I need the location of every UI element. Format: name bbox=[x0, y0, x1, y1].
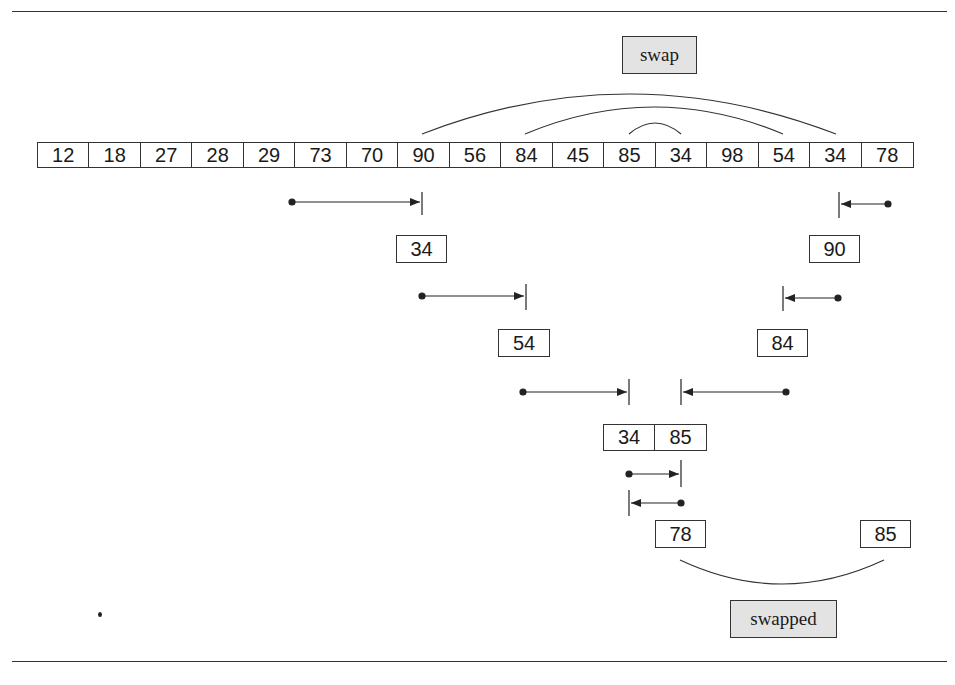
array-cell: 70 bbox=[347, 143, 398, 167]
array-cell: 18 bbox=[89, 143, 140, 167]
array-cell: 29 bbox=[244, 143, 295, 167]
swapped-label: swapped bbox=[730, 600, 837, 638]
array-cell: 45 bbox=[553, 143, 604, 167]
array-cell: 73 bbox=[295, 143, 346, 167]
array-cell: 27 bbox=[141, 143, 192, 167]
stray-dot-mark bbox=[98, 612, 102, 617]
array-cell: 84 bbox=[501, 143, 552, 167]
array-cell: 12 bbox=[38, 143, 89, 167]
array-cell: 56 bbox=[450, 143, 501, 167]
array-cell: 85 bbox=[604, 143, 655, 167]
swapped-arc bbox=[680, 560, 884, 584]
array-row: 12 18 27 28 29 73 70 90 56 84 45 85 34 9… bbox=[37, 142, 914, 168]
array-cell: 28 bbox=[192, 143, 243, 167]
step2-right-value: 84 bbox=[757, 329, 808, 357]
swap-arc-inner bbox=[629, 123, 681, 134]
final-right-value: 85 bbox=[860, 520, 911, 548]
step1-left-value: 34 bbox=[396, 235, 447, 263]
array-cell: 34 bbox=[810, 143, 861, 167]
diagram-lines bbox=[0, 0, 955, 685]
swap-arc-outer bbox=[422, 94, 836, 134]
array-cell: 34 bbox=[656, 143, 707, 167]
bottom-rule bbox=[12, 661, 947, 662]
swap-arc-middle bbox=[525, 107, 783, 134]
step1-right-value: 90 bbox=[809, 235, 860, 263]
final-left-value: 78 bbox=[655, 520, 706, 548]
array-cell: 78 bbox=[862, 143, 913, 167]
array-cell: 54 bbox=[759, 143, 810, 167]
step3-pair: 34 85 bbox=[603, 424, 707, 451]
pair-left-value: 34 bbox=[604, 425, 655, 450]
pair-right-value: 85 bbox=[655, 425, 706, 450]
step2-left-value: 54 bbox=[498, 329, 550, 357]
array-cell: 98 bbox=[707, 143, 758, 167]
array-cell: 90 bbox=[398, 143, 449, 167]
